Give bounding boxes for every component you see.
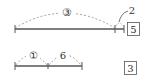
circled-label: ① (29, 50, 38, 61)
sub-segment-label: 2 (129, 5, 135, 16)
problem-2: ① 6 3 (15, 49, 137, 75)
answer-value: 3 (127, 63, 133, 74)
problem-1: ③ 2 5 (15, 5, 140, 36)
answer-value: 5 (130, 24, 136, 35)
right-length-label: 6 (60, 50, 66, 61)
circled-label: ③ (62, 6, 72, 19)
pointer-line (119, 11, 128, 22)
small-dashed-arc (116, 23, 123, 26)
diagram-canvas: ③ 2 5 ① 6 3 (0, 0, 148, 84)
